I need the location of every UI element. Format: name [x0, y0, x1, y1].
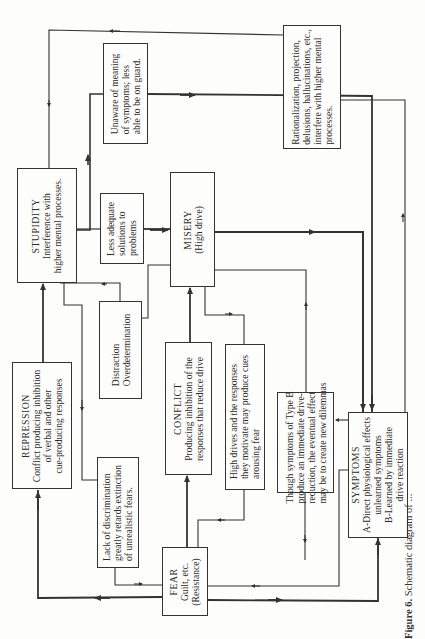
repression-title: REPRESSION — [20, 369, 31, 481]
lack-discrimination-line-2: greatly retards extinction — [112, 465, 123, 561]
unaware-line-3: able to be on guard. — [131, 53, 142, 133]
though-symptoms-line-3: reduction, the eventual effect — [306, 382, 317, 503]
symptoms-line-1: A-Direct physiological effects — [362, 417, 373, 533]
less-adequate-line-2: solutions to — [116, 201, 127, 255]
symptoms-box: SYMPTOMS A-Direct physiological effects … — [348, 412, 408, 538]
less-adequate-line-3: problems — [128, 201, 139, 255]
symptoms-title: SYMPTOMS — [350, 417, 361, 533]
fear-box: FEAR Guilt, etc. (Resistance) — [162, 547, 208, 616]
caption-text: Schematic diagram of ... — [403, 494, 414, 597]
though-symptoms-box: Though symptoms of Type B produce an imm… — [277, 392, 334, 493]
high-drives-line-2: they motivate may produce cues — [239, 355, 250, 479]
unaware-line-2: of symptoms; less — [120, 53, 131, 133]
repression-line-1: Conflict producing inhibition — [31, 369, 42, 481]
repression-line-2: of verbal and other — [42, 369, 53, 481]
lack-discrimination-line-1: Lack of discrimination — [101, 465, 112, 561]
repression-line-3: cue-producing responses — [53, 369, 64, 481]
though-symptoms-line-1: Though symptoms of Type B — [283, 382, 294, 503]
lack-discrimination-line-3: of unrealistic fears. — [124, 465, 135, 561]
conflict-line-1: Producing inhibition of the — [183, 356, 194, 460]
distraction-line-1: Distraction — [109, 314, 120, 386]
conflict-line-2: responses that reduce drive — [194, 356, 205, 460]
conflict-box: CONFLICT Producing inhibition of the res… — [165, 342, 212, 475]
distraction-box: Distraction Overdetermination — [99, 301, 142, 399]
symptoms-line-3: B-Learned by immediate — [384, 417, 395, 533]
unaware-line-1: Unaware of meaning — [109, 53, 120, 133]
less-adequate-box: Less adequate solutions to problems — [100, 193, 144, 264]
rationalization-line-2: delusions, hallucinations, etc., — [301, 29, 312, 145]
high-drives-line-1: High drives and the responses — [228, 355, 239, 479]
unaware-box: Unaware of meaning of symptoms; less abl… — [103, 43, 148, 144]
high-drives-line-3: arousing fear — [251, 355, 262, 479]
fear-title: FEAR — [168, 558, 179, 605]
symptoms-line-2: unlearned symptoms — [373, 417, 384, 533]
though-symptoms-line-2: produce an immediate drive- — [294, 382, 305, 503]
rationalization-box: Rationalization, projection, delusions, … — [283, 25, 341, 149]
stupidity-title: STUPIDITY — [30, 178, 41, 273]
repression-box: REPRESSION Conflict producing inhibition… — [12, 362, 72, 489]
rationalization-line-1: Rationalization, projection, — [290, 29, 301, 145]
fear-line-2: (Resistance) — [191, 558, 202, 605]
misery-box: MISERY (High drive) — [170, 172, 215, 287]
rationalization-line-3: interfere with higher mental — [312, 29, 323, 145]
connector-lines — [0, 0, 425, 639]
less-adequate-line-1: Less adequate — [105, 201, 116, 255]
misery-line-1: (High drive) — [193, 206, 204, 254]
caption-label: Figure 6. — [403, 599, 414, 639]
stupidity-line-1: Interference with — [42, 178, 53, 273]
though-symptoms-line-4: may be to create new dilemmas — [317, 382, 328, 503]
high-drives-box: High drives and the responses they motiv… — [225, 344, 265, 490]
scanned-page: Unaware of meaning of symptoms; less abl… — [0, 0, 425, 639]
stupidity-line-2: higher mental processes. — [53, 178, 64, 273]
conflict-title: CONFLICT — [172, 356, 183, 460]
fear-line-1: Guilt, etc. — [180, 558, 191, 605]
distraction-line-2: Overdetermination — [121, 314, 132, 386]
rationalization-line-4: processes. — [323, 29, 334, 145]
lack-discrimination-box: Lack of discrimination greatly retards e… — [97, 457, 139, 568]
stupidity-box: STUPIDITY Interference with higher menta… — [17, 168, 77, 283]
misery-title: MISERY — [181, 206, 192, 254]
figure-caption: Figure 6. Schematic diagram of ... — [403, 494, 414, 639]
